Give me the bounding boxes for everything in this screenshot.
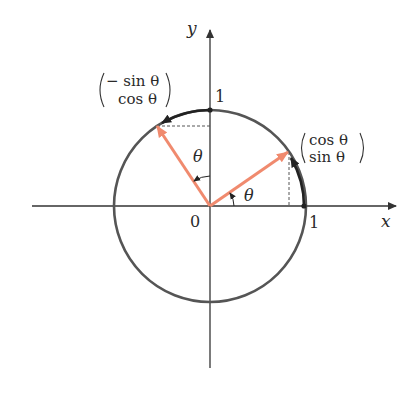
theta-label-right: θ [244, 186, 254, 205]
vector-right-bottom: sin θ [309, 148, 345, 166]
x-tick-label: 1 [309, 213, 319, 232]
theta-label-left: θ [193, 147, 203, 166]
vector-left-top: − sin θ [106, 72, 159, 90]
unit-circle-diagram: y x 0 1 1 θ θ cos θ sin θ − sin θ cos θ [0, 0, 417, 397]
vector-label-cos-sin: cos θ sin θ [302, 131, 364, 166]
point-y1 [207, 107, 212, 112]
x-axis-label: x [381, 211, 391, 231]
origin-label: 0 [190, 212, 200, 231]
y-tick-label: 1 [215, 87, 225, 106]
vector-left-bottom: cos θ [118, 90, 157, 108]
vector-negsin-cos [157, 126, 210, 206]
angle-arc-right [230, 193, 234, 206]
y-axis-label: y [186, 18, 197, 38]
vector-label-negsin-cos: − sin θ cos θ [100, 72, 170, 108]
vector-right-top: cos θ [309, 131, 348, 149]
arc-arrow-top [162, 110, 210, 123]
angle-arc-left [194, 176, 210, 181]
point-x1 [301, 203, 306, 208]
